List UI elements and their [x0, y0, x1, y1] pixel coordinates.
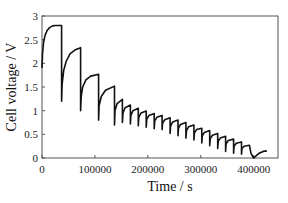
- x-tick-label: 100000: [78, 163, 112, 175]
- voltage-time-chart: 00.511.522.53 0100000200000300000400000 …: [0, 0, 288, 203]
- y-tick-label: 2.5: [24, 34, 38, 46]
- x-tick-label: 400000: [237, 163, 271, 175]
- x-tick-label: 300000: [184, 163, 218, 175]
- y-tick-label: 0: [33, 152, 39, 164]
- cell-voltage-line: [42, 26, 267, 159]
- y-tick-label: 1: [33, 105, 39, 117]
- x-axis-title: Time / s: [147, 179, 192, 194]
- y-tick-label: 2: [33, 57, 39, 69]
- y-tick-label: 0.5: [24, 128, 38, 140]
- y-axis-title: Cell voltage / V: [4, 43, 19, 132]
- x-tick-label: 200000: [131, 163, 165, 175]
- y-tick-label: 3: [33, 10, 39, 22]
- x-tick-label: 0: [39, 163, 45, 175]
- plot-frame: [42, 16, 278, 158]
- y-tick-label: 1.5: [24, 81, 38, 93]
